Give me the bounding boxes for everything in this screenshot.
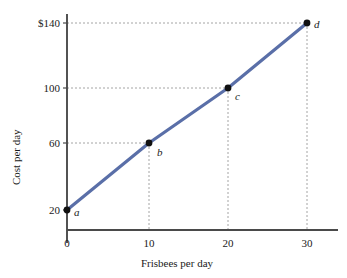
point-label-a: a bbox=[74, 207, 80, 218]
x-axis-title: Frisbees per day bbox=[112, 257, 242, 269]
data-point-c bbox=[225, 85, 232, 92]
data-point-d bbox=[304, 20, 311, 27]
x-tick-label-0: 0 bbox=[53, 238, 81, 249]
data-point-a bbox=[64, 207, 71, 214]
data-point-b bbox=[146, 140, 153, 147]
y-tick-label-100: 100 bbox=[16, 83, 60, 94]
y-tick-label-140: $140 bbox=[16, 18, 60, 29]
point-label-d: d bbox=[314, 19, 320, 30]
y-axis-title: Cost per day bbox=[10, 129, 22, 185]
x-tick-label-10: 10 bbox=[135, 238, 163, 249]
axes bbox=[67, 14, 338, 243]
y-tick-label-60: 60 bbox=[16, 138, 60, 149]
x-tick-label-20: 20 bbox=[214, 238, 242, 249]
cost-line-series bbox=[67, 23, 307, 210]
y-tick-label-20: 20 bbox=[16, 205, 60, 216]
cost-per-day-chart: 20 60 100 $140 0 10 20 30 a b c d Frisbe… bbox=[0, 0, 347, 278]
x-tick-label-30: 30 bbox=[293, 238, 321, 249]
point-label-b: b bbox=[157, 147, 163, 158]
point-label-c: c bbox=[235, 91, 240, 102]
